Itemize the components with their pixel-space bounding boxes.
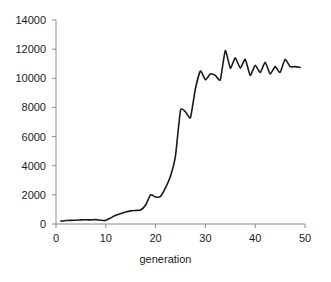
- series-line-0: [61, 51, 300, 222]
- chart-container: 14000 12000 10000 8000 6000 4000 2000 0 …: [0, 0, 331, 282]
- plot-area: [0, 0, 331, 282]
- data-series: [61, 51, 300, 222]
